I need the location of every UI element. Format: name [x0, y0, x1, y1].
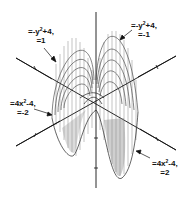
label-bottom-right-pre: =4x: [152, 159, 166, 168]
label-top-left: =-y2+4, =1: [28, 27, 54, 45]
right-hump: [96, 36, 138, 112]
label-top-right-line2: =-1: [138, 30, 150, 39]
label-mid-left-post: -4,: [26, 99, 35, 108]
label-top-left-line2: =1: [36, 36, 45, 45]
label-bottom-right-post: -4,: [168, 159, 177, 168]
label-top-right: =-y2+4, =-1: [131, 21, 157, 39]
label-top-left-pre: =-y: [28, 27, 40, 36]
label-bottom-right-line2: =2: [160, 168, 169, 177]
label-mid-left: =4x2-4, =-2: [10, 99, 36, 117]
label-top-right-pre: =-y: [131, 21, 143, 30]
label-mid-left-pre: =4x: [10, 99, 24, 108]
label-top-right-post: +4,: [146, 21, 157, 30]
label-bottom-right: =4x2-4, =2: [152, 159, 178, 177]
label-top-left-post: +4,: [43, 27, 54, 36]
lobe-shade-left: [62, 110, 86, 153]
left-hump: [52, 50, 94, 118]
label-mid-left-line2: =-2: [17, 108, 29, 117]
